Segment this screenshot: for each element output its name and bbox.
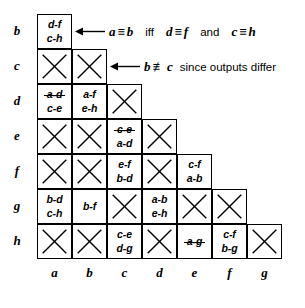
cell-f-a[interactable] xyxy=(37,154,72,189)
left-arrow-icon xyxy=(75,26,105,37)
cell-f-d[interactable] xyxy=(142,154,177,189)
annotation-italic: f xyxy=(184,24,188,40)
cell-f-c[interactable]: e-fb-d xyxy=(107,154,142,189)
cell-pairs: b-dc-h xyxy=(38,190,71,223)
implied-pair: e-h xyxy=(82,102,97,115)
annotation-op: ≡ xyxy=(116,25,127,39)
cell-g-e[interactable] xyxy=(177,189,212,224)
cell-g-c[interactable] xyxy=(107,189,142,224)
implied-pair: c-e xyxy=(47,102,62,115)
x-mark-icon xyxy=(38,50,71,83)
cell-pairs: d-fc-h xyxy=(38,15,71,48)
implied-pair: b-g xyxy=(221,242,237,255)
cell-h-c[interactable]: c-ed-g xyxy=(107,224,142,259)
implied-pair: b-f xyxy=(83,200,96,213)
x-mark-icon xyxy=(108,190,141,223)
implied-pair: a-d xyxy=(117,137,132,150)
x-mark-icon xyxy=(248,225,281,258)
annotation-equivalence: a≡biffd≡fandc≡h xyxy=(75,24,256,40)
x-mark-icon xyxy=(143,225,176,258)
cell-pairs: c-fa-b xyxy=(178,155,211,188)
cell-pairs: e-fb-d xyxy=(108,155,141,188)
implied-pair: c-f xyxy=(188,158,201,171)
cell-e-c[interactable]: c-ea-d xyxy=(107,119,142,154)
cell-pairs: c-ed-g xyxy=(108,225,141,258)
implied-pair-struck: c-e xyxy=(117,123,132,136)
cell-g-b[interactable]: b-f xyxy=(72,189,107,224)
col-label-e: e xyxy=(177,265,212,281)
col-label-a: a xyxy=(37,265,72,281)
implied-pair: b-d xyxy=(46,193,62,206)
row-label-d: d xyxy=(2,93,32,109)
cell-h-e[interactable]: a-g xyxy=(177,224,212,259)
implied-pair: b-d xyxy=(116,172,132,185)
cell-c-b[interactable] xyxy=(72,49,107,84)
implied-pair: a-b xyxy=(187,172,202,185)
cell-d-b[interactable]: a-fe-h xyxy=(72,84,107,119)
annotation-op: ≢ xyxy=(151,60,168,74)
row-label-g: g xyxy=(2,198,32,214)
annotation-nonequivalence: b≢csince outputs differ xyxy=(110,59,276,75)
annotation-op: ≡ xyxy=(237,25,248,39)
implied-pair: c-e xyxy=(117,228,132,241)
cell-g-d[interactable]: a-be-h xyxy=(142,189,177,224)
cell-pairs: c-fb-g xyxy=(213,225,246,258)
col-label-g: g xyxy=(247,265,282,281)
implication-chart: bcdefghabcdefgd-fc-ha-dc-ea-fe-hc-ea-de-… xyxy=(0,0,305,308)
implied-pair: d-f xyxy=(48,18,61,31)
x-mark-icon xyxy=(38,155,71,188)
x-mark-icon xyxy=(38,225,71,258)
x-mark-icon xyxy=(108,85,141,118)
implied-pair: e-h xyxy=(152,207,167,220)
implied-pair: c-h xyxy=(47,207,62,220)
annotation-word: iff xyxy=(145,26,154,38)
x-mark-icon xyxy=(143,120,176,153)
implied-pair: a-f xyxy=(83,88,96,101)
x-mark-icon xyxy=(213,190,246,223)
x-mark-icon xyxy=(73,155,106,188)
annotation-italic: c xyxy=(167,59,173,75)
col-label-d: d xyxy=(142,265,177,281)
cell-e-b[interactable] xyxy=(72,119,107,154)
cell-h-g[interactable] xyxy=(247,224,282,259)
cell-h-b[interactable] xyxy=(72,224,107,259)
cell-g-f[interactable] xyxy=(212,189,247,224)
implied-pair: c-f xyxy=(223,228,236,241)
cell-pairs: a-dc-e xyxy=(38,85,71,118)
cell-h-d[interactable] xyxy=(142,224,177,259)
col-label-c: c xyxy=(107,265,142,281)
cell-b-a[interactable]: d-fc-h xyxy=(37,14,72,49)
row-label-b: b xyxy=(2,23,32,39)
cell-f-b[interactable] xyxy=(72,154,107,189)
cell-h-a[interactable] xyxy=(37,224,72,259)
x-mark-icon xyxy=(73,225,106,258)
annotation-italic: b xyxy=(127,24,134,40)
cell-e-d[interactable] xyxy=(142,119,177,154)
x-mark-icon xyxy=(73,50,106,83)
cell-h-f[interactable]: c-fb-g xyxy=(212,224,247,259)
row-label-c: c xyxy=(2,58,32,74)
annotation-op: ≡ xyxy=(173,25,184,39)
cell-c-a[interactable] xyxy=(37,49,72,84)
cell-d-c[interactable] xyxy=(107,84,142,119)
implied-pair-struck: a-g xyxy=(187,235,202,248)
cell-f-e[interactable]: c-fa-b xyxy=(177,154,212,189)
row-label-e: e xyxy=(2,128,32,144)
cell-pairs: c-ea-d xyxy=(108,120,141,153)
cell-pairs: b-f xyxy=(73,190,106,223)
implied-pair: a-b xyxy=(152,193,167,206)
cell-g-a[interactable]: b-dc-h xyxy=(37,189,72,224)
implied-pair: c-h xyxy=(47,32,62,45)
col-label-f: f xyxy=(212,265,247,281)
cell-d-a[interactable]: a-dc-e xyxy=(37,84,72,119)
row-label-f: f xyxy=(2,163,32,179)
annotation-word: since outputs differ xyxy=(180,61,276,73)
annotation-word: and xyxy=(200,26,219,38)
x-mark-icon xyxy=(143,155,176,188)
implied-pair: e-f xyxy=(118,158,131,171)
implied-pair-struck: a-d xyxy=(47,88,62,101)
implied-pair: d-g xyxy=(116,242,132,255)
left-arrow-icon xyxy=(110,61,140,72)
cell-pairs: a-g xyxy=(178,225,211,258)
cell-e-a[interactable] xyxy=(37,119,72,154)
